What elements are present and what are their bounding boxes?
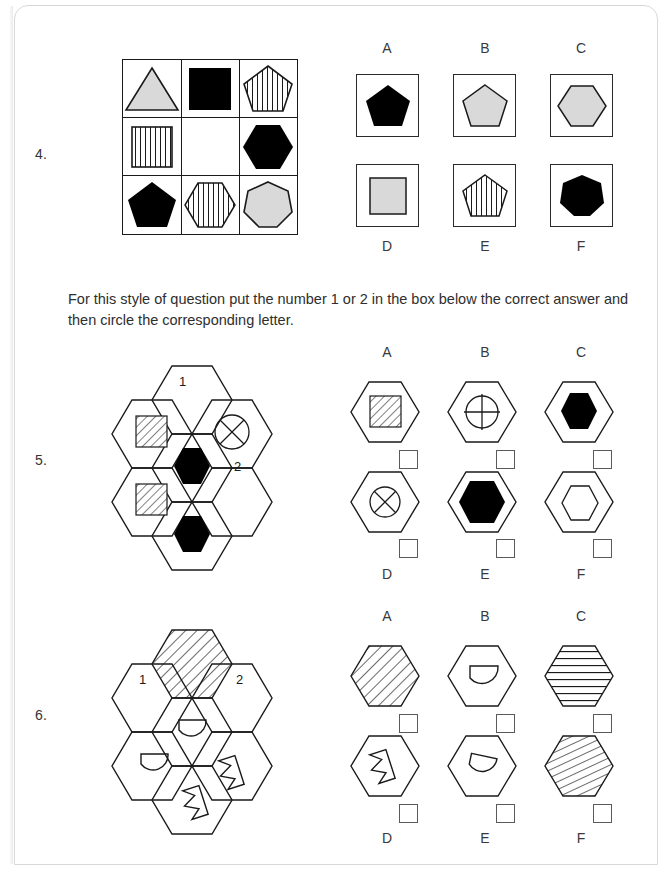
q6-answer-box-d[interactable] — [399, 804, 418, 823]
matrix-cell — [240, 176, 298, 234]
hexagon-with-white-hexagon — [543, 470, 615, 534]
q5-answer-box-a[interactable] — [399, 450, 418, 469]
q4-option-label-b: B — [470, 40, 500, 56]
matrix-cell — [182, 176, 240, 234]
q4-matrix-grid — [122, 59, 298, 235]
q4-option-a[interactable] — [356, 74, 419, 137]
q5-answer-box-b[interactable] — [496, 450, 515, 469]
half-moon-icon — [141, 754, 168, 770]
q5-option-e[interactable] — [446, 470, 518, 534]
q6-option-f[interactable] — [543, 734, 615, 798]
black-pentagon-icon — [126, 180, 178, 230]
cluster-marker-1: 1 — [139, 672, 146, 687]
q6-option-label-d: D — [372, 830, 402, 846]
question-number-6: 6. — [35, 707, 47, 723]
matrix-cell — [240, 118, 298, 176]
black-square-icon — [187, 66, 233, 112]
q5-option-label-e: E — [470, 566, 500, 582]
cluster-marker-1: 1 — [179, 374, 186, 389]
black-pentagon-icon — [364, 83, 412, 129]
gray-square-icon — [368, 176, 408, 216]
q4-option-label-e: E — [470, 238, 500, 254]
q6-answer-box-c[interactable] — [593, 714, 612, 733]
q6-answer-box-a[interactable] — [399, 714, 418, 733]
q5-option-label-c: C — [566, 344, 596, 360]
q6-option-label-e: E — [470, 830, 500, 846]
black-hexagon-icon — [241, 123, 295, 171]
black-hexagon-icon — [174, 448, 210, 484]
page-edge-shadow — [9, 6, 13, 864]
q4-option-c[interactable] — [550, 74, 613, 137]
q6-option-e[interactable] — [446, 734, 518, 798]
hexagon-with-circle-plus — [446, 380, 518, 444]
q4-option-d[interactable] — [356, 164, 419, 227]
hexagon-with-hatched-square — [349, 380, 421, 444]
q6-option-a[interactable] — [349, 644, 421, 708]
q4-option-e[interactable] — [453, 164, 516, 227]
cluster-marker-2: 2 — [236, 672, 243, 687]
q5-option-b[interactable] — [446, 380, 518, 444]
q5-answer-box-f[interactable] — [593, 539, 612, 558]
cluster-marker-2: 2 — [234, 459, 241, 474]
q4-option-label-a: A — [372, 40, 402, 56]
hexagon-with-black-hexagon-small — [543, 380, 615, 444]
matrix-cell — [123, 176, 182, 234]
circle-x-icon — [215, 415, 249, 449]
black-heptagon-icon — [558, 173, 606, 219]
q4-option-label-f: F — [566, 238, 596, 254]
striped-hexagon-icon — [183, 181, 237, 229]
q5-hex-cluster: 1 2 — [103, 358, 303, 540]
hexagon-with-black-hexagon — [446, 470, 518, 534]
q5-answer-box-c[interactable] — [593, 450, 612, 469]
matrix-cell — [123, 118, 182, 176]
hatched-square-icon — [136, 416, 167, 447]
half-moon-icon — [179, 720, 206, 736]
q5-option-d[interactable] — [349, 470, 421, 534]
q6-hex-cluster: 1 2 — [103, 622, 303, 804]
matrix-cell — [123, 60, 182, 118]
matrix-cell-empty — [182, 118, 240, 176]
q5-option-label-b: B — [470, 344, 500, 360]
striped-pentagon-icon — [242, 64, 294, 114]
question-number-5: 5. — [35, 452, 47, 468]
instruction-text: For this style of question put the numbe… — [68, 289, 634, 331]
q6-option-d[interactable] — [349, 734, 421, 798]
q6-option-label-b: B — [470, 608, 500, 624]
striped-square-icon — [130, 125, 174, 169]
q6-option-label-f: F — [566, 830, 596, 846]
q6-option-label-c: C — [566, 608, 596, 624]
q6-answer-box-e[interactable] — [496, 804, 515, 823]
hexagon-with-circle-x — [349, 470, 421, 534]
q6-option-c[interactable] — [543, 644, 615, 708]
hexagon-with-half-moon-rotated — [446, 734, 518, 798]
q5-answer-box-d[interactable] — [399, 539, 418, 558]
q6-answer-box-f[interactable] — [593, 804, 612, 823]
question-number-4: 4. — [35, 146, 47, 162]
q5-option-label-a: A — [372, 344, 402, 360]
q5-option-a[interactable] — [349, 380, 421, 444]
q4-option-label-d: D — [372, 238, 402, 254]
gray-hexagon-icon — [556, 84, 608, 128]
striped-pentagon-icon — [461, 173, 509, 219]
q6-answer-box-b[interactable] — [496, 714, 515, 733]
gray-heptagon-icon — [242, 180, 294, 230]
q5-option-label-f: F — [566, 566, 596, 582]
q6-option-label-a: A — [372, 608, 402, 624]
gray-pentagon-icon — [461, 83, 509, 129]
q6-option-b[interactable] — [446, 644, 518, 708]
q5-option-c[interactable] — [543, 380, 615, 444]
matrix-cell — [182, 60, 240, 118]
arrow-left-icon — [216, 756, 244, 791]
q5-cluster-svg: 1 2 — [103, 358, 303, 540]
horizontal-lines-hexagon — [543, 644, 615, 708]
q4-option-b[interactable] — [453, 74, 516, 137]
q4-option-label-c: C — [566, 40, 596, 56]
q5-option-f[interactable] — [543, 470, 615, 534]
hatched-square-icon — [136, 484, 167, 515]
diagonal-hatch-steep-hexagon — [543, 734, 615, 798]
q4-option-f[interactable] — [550, 164, 613, 227]
matrix-cell — [240, 60, 298, 118]
q5-answer-box-e[interactable] — [496, 539, 515, 558]
hexagon-with-arrow-left — [349, 734, 421, 798]
diagonal-hatch-hexagon — [349, 644, 421, 708]
